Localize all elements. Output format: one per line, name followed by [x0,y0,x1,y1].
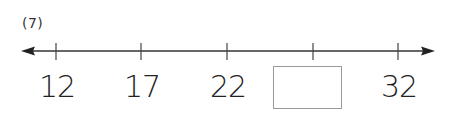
right-arrow-icon [421,47,435,56]
tick-label-12: 12 [39,72,75,102]
left-arrow-icon [21,47,35,56]
tick-label-32: 32 [381,72,417,102]
answer-box[interactable] [273,66,342,109]
tick-label-17: 17 [124,72,160,102]
tick-label-22: 22 [210,72,246,102]
